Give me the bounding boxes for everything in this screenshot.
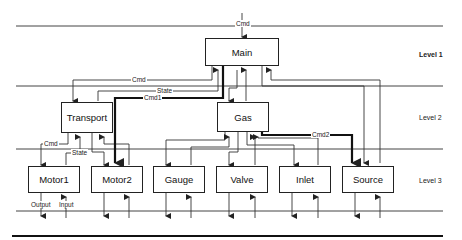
node-source: Source	[342, 166, 394, 193]
label-cmd-transport: Cmd	[131, 76, 147, 83]
label-state-motor1: State	[71, 149, 88, 156]
label-cmd2: Cmd2	[311, 131, 330, 138]
label-output: Output	[30, 201, 52, 208]
node-main: Main	[205, 38, 279, 66]
label-cmd-top: Cmd	[235, 20, 251, 27]
label-input: Input	[58, 201, 74, 208]
edge-cmd2	[262, 132, 352, 163]
node-valve: Valve	[216, 166, 268, 193]
node-gauge: Gauge	[153, 166, 205, 193]
node-inlet: Inlet	[279, 166, 331, 193]
label-cmd1: Cmd1	[143, 94, 162, 101]
node-motor1: Motor1	[28, 166, 80, 193]
node-transport: Transport	[61, 102, 113, 133]
node-motor2: Motor2	[91, 166, 143, 193]
level-2-label: Level 2	[419, 114, 442, 121]
node-gas: Gas	[217, 102, 269, 132]
label-cmd-motor1: Cmd	[43, 140, 59, 147]
level-3-label: Level 3	[419, 177, 442, 184]
label-state-transport: State	[156, 87, 173, 94]
level-1-label: Level 1	[419, 51, 443, 58]
